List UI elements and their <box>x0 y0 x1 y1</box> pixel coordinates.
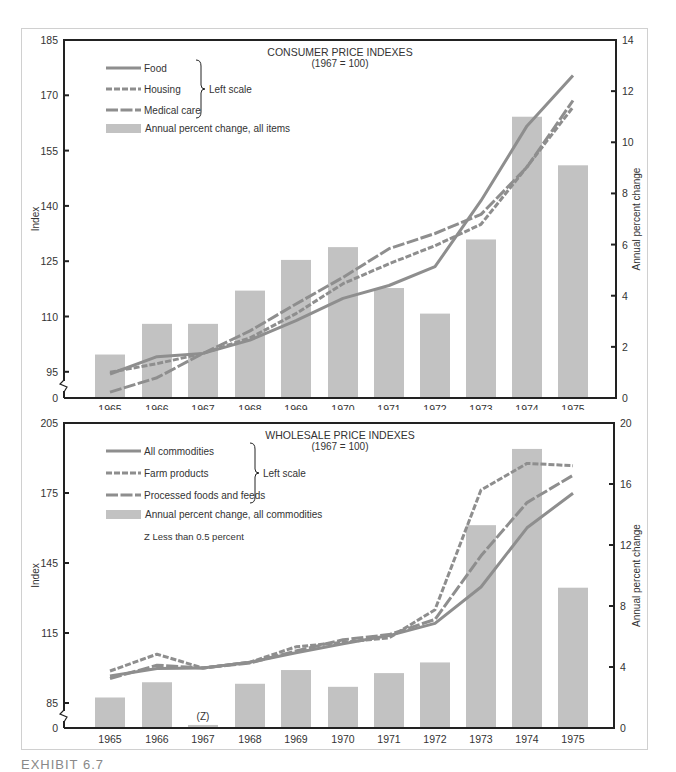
x-tick-label: 1970 <box>331 733 355 745</box>
right-tick-label: 8 <box>620 600 626 612</box>
chart-subtitle: (1967 = 100) <box>312 441 369 452</box>
left-tick-label: 175 <box>40 487 58 499</box>
legend-bar-swatch <box>106 510 141 519</box>
chart-title: WHOLESALE PRICE INDEXES <box>265 429 414 441</box>
legend-label: Annual percent change, all commodities <box>145 509 322 520</box>
bar-1969 <box>281 670 311 728</box>
x-tick-label: 1973 <box>469 733 493 745</box>
y2-axis-title: Annual percent change <box>631 524 642 627</box>
bar-1971 <box>374 673 404 728</box>
x-tick-label: 1967 <box>191 733 215 745</box>
x-tick-label: 1971 <box>377 733 401 745</box>
footnote: Z Less than 0.5 percent <box>144 531 244 542</box>
bar-1970 <box>328 687 358 728</box>
legend-label: Farm products <box>144 468 208 479</box>
bar-1968 <box>235 684 265 728</box>
x-tick-label: 1965 <box>98 733 122 745</box>
line-all-commodities <box>110 493 573 676</box>
bar-1965 <box>95 698 125 729</box>
left-tick-label: 0 <box>52 722 58 734</box>
exhibit-label: EXHIBIT 6.7 <box>21 757 104 772</box>
x-tick-label: 1969 <box>284 733 308 745</box>
x-tick-label: 1966 <box>145 733 169 745</box>
y-axis-title: Index <box>30 563 41 587</box>
right-tick-label: 20 <box>620 417 632 429</box>
left-tick-label: 205 <box>40 417 58 429</box>
bar-1974 <box>512 449 542 728</box>
x-tick-label: 1972 <box>423 733 447 745</box>
right-tick-label: 0 <box>620 722 626 734</box>
bar-1972 <box>420 662 450 728</box>
x-tick-label: 1974 <box>515 733 539 745</box>
right-tick-label: 16 <box>620 478 632 490</box>
bar-annotation: (Z) <box>197 711 210 722</box>
legend-label: Processed foods and feeds <box>144 490 265 501</box>
left-tick-label: 85 <box>46 697 58 709</box>
line-processed-foods-and-feeds <box>110 475 573 678</box>
x-tick-label: 1968 <box>238 733 262 745</box>
legend-label: All commodities <box>144 446 214 457</box>
bar-1975 <box>558 588 588 728</box>
x-tick-label: 1975 <box>561 733 585 745</box>
left-tick-label: 115 <box>41 627 58 639</box>
bar-1966 <box>142 682 172 728</box>
left-tick-label: 145 <box>40 557 58 569</box>
right-tick-label: 4 <box>620 661 626 673</box>
legend-bracket-label: Left scale <box>263 468 306 479</box>
